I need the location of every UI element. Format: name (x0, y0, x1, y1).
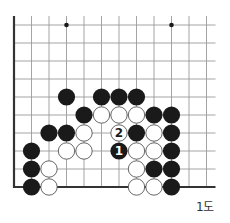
black-stone-icon (163, 178, 180, 195)
black-stone-icon (58, 88, 75, 105)
black-stone-icon (58, 124, 75, 141)
black-stone-icon (23, 178, 40, 195)
move-number-label: 2 (115, 126, 123, 140)
black-stone-icon (110, 88, 127, 105)
white-stone-icon (76, 143, 92, 159)
black-stone (75, 106, 92, 123)
white-stone (93, 107, 109, 123)
black-stone-icon (163, 142, 180, 159)
black-stone (110, 88, 127, 105)
black-stone-icon (163, 124, 180, 141)
black-stone-icon (75, 106, 92, 123)
white-stone (41, 161, 57, 177)
black-stone (93, 88, 110, 105)
white-stone (58, 143, 74, 159)
black-stone (163, 142, 180, 159)
white-stone (111, 107, 127, 123)
diagram-caption: 1도 (196, 197, 214, 214)
black-stone: 1 (110, 142, 127, 159)
black-stone-icon (163, 106, 180, 123)
white-stone (128, 179, 144, 195)
black-stone-icon (163, 160, 180, 177)
black-stone-icon (145, 106, 162, 123)
white-stone-icon (128, 143, 144, 159)
white-stone (76, 143, 92, 159)
star-point-icon (64, 23, 69, 28)
white-stone-icon (58, 143, 74, 159)
white-stone-icon (128, 107, 144, 123)
black-stone (145, 106, 162, 123)
black-stone (145, 160, 162, 177)
go-board: 21 (0, 0, 230, 223)
white-stone-icon (128, 179, 144, 195)
black-stone-icon (23, 142, 40, 159)
black-stone (40, 124, 57, 141)
white-stone (146, 125, 162, 141)
black-stone-icon (40, 124, 57, 141)
black-stone (23, 160, 40, 177)
white-stone-icon (146, 143, 162, 159)
white-stone-icon (41, 161, 57, 177)
black-stone-icon (128, 124, 145, 141)
white-stone-icon (93, 107, 109, 123)
white-stone-icon (146, 179, 162, 195)
black-stone (163, 106, 180, 123)
white-stone (128, 143, 144, 159)
white-stone-icon (76, 125, 92, 141)
white-stone-icon (128, 161, 144, 177)
black-stone (23, 178, 40, 195)
black-stone (163, 160, 180, 177)
black-stone-icon (23, 160, 40, 177)
white-stone (76, 125, 92, 141)
white-stone (41, 179, 57, 195)
black-stone (58, 124, 75, 141)
white-stone-icon (41, 179, 57, 195)
white-stone-icon (111, 107, 127, 123)
black-stone-icon (93, 88, 110, 105)
black-stone-icon (128, 88, 145, 105)
white-stone: 2 (111, 125, 127, 141)
black-stone (163, 178, 180, 195)
black-stone (23, 142, 40, 159)
white-stone (146, 143, 162, 159)
black-stone-icon (145, 160, 162, 177)
white-stone-icon (146, 125, 162, 141)
white-stone (128, 107, 144, 123)
star-point-icon (169, 23, 174, 28)
white-stone (146, 179, 162, 195)
move-number-label: 1 (115, 144, 123, 158)
black-stone (128, 88, 145, 105)
black-stone (128, 124, 145, 141)
white-stone (128, 161, 144, 177)
black-stone (58, 88, 75, 105)
black-stone (163, 124, 180, 141)
